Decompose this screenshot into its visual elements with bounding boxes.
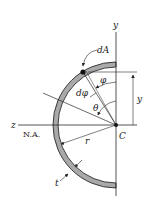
z-axis-label: z [10, 120, 16, 130]
dphi-pointer [90, 93, 96, 97]
cross-section-diagram: y dA φ dφ θ y z N.A. C r t [0, 0, 151, 210]
radius-label: r [85, 136, 90, 146]
dphi-label: dφ [76, 88, 89, 98]
thickness-arrow-inner [75, 160, 82, 167]
neutral-axis-label: N.A. [23, 130, 40, 139]
thickness-arrow-outer [60, 174, 68, 181]
theta-arc [98, 101, 116, 115]
phi-label: φ [100, 75, 107, 85]
y-axis-label: y [112, 20, 119, 30]
y-dimension-label: y [136, 94, 143, 104]
theta-label: θ [93, 103, 99, 113]
thickness-label: t [55, 178, 59, 188]
centroid-label: C [119, 131, 126, 141]
dA-label: dA [97, 45, 110, 55]
dA-leader [83, 50, 97, 66]
dA-element [80, 69, 85, 74]
